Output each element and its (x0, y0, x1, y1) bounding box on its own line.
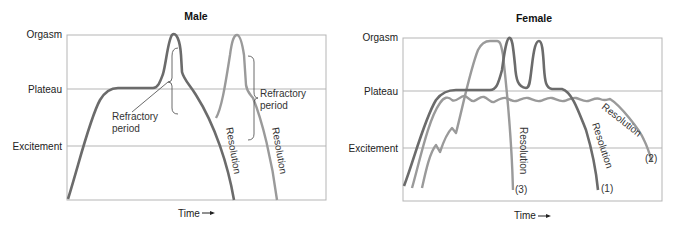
male-refractory-label-1a: Refractory (112, 111, 158, 122)
male-curve-light (216, 35, 277, 200)
female-curve-label-2: (2) (645, 153, 657, 164)
male-refractory-label-2b: period (260, 100, 288, 111)
female-chart: Female Orgasm Plateau Excitement Resolut… (349, 12, 662, 221)
female-curve-label-1: (1) (601, 183, 613, 194)
male-refractory-label-1b: period (112, 123, 140, 134)
male-plot-frame (67, 35, 326, 200)
male-time-label: Time (178, 208, 200, 219)
female-time-label: Time (514, 210, 536, 221)
female-resolution-label-2: Resolution (600, 101, 644, 139)
male-excitement-label: Excitement (13, 141, 63, 152)
female-plateau-label: Plateau (364, 86, 398, 97)
male-refractory-leader (132, 82, 168, 112)
female-time-arrowhead-icon (546, 214, 551, 218)
female-curve-label-3: (3) (515, 184, 527, 195)
female-excitement-label: Excitement (349, 143, 399, 154)
male-orgasm-label: Orgasm (26, 29, 62, 40)
male-chart: Male Orgasm Plateau Excitement Refractor… (13, 10, 326, 219)
charts-canvas: Male Orgasm Plateau Excitement Refractor… (0, 0, 673, 231)
male-time-arrowhead-icon (210, 211, 215, 215)
male-refractory-bracket-1 (168, 48, 178, 114)
female-title: Female (516, 12, 552, 24)
female-resolution-label-3: Resolution (518, 127, 529, 174)
male-refractory-label-2a: Refractory (260, 88, 306, 99)
male-title: Male (184, 10, 208, 22)
female-curve-3 (422, 41, 513, 190)
female-orgasm-label: Orgasm (362, 32, 398, 43)
male-plateau-label: Plateau (28, 84, 62, 95)
